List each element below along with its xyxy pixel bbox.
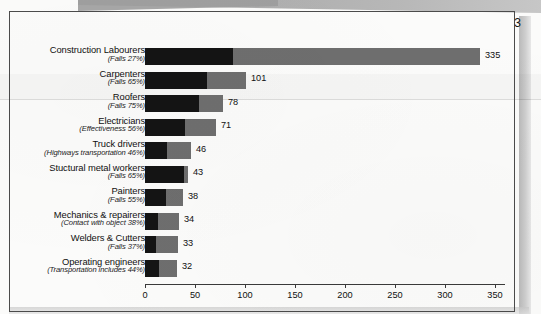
bar-value-label: 34 [184, 214, 194, 224]
x-axis-tick [245, 284, 246, 288]
x-axis-tick [395, 284, 396, 288]
bar-value-label: 46 [196, 144, 206, 154]
bar-segment-dark [145, 260, 159, 277]
bar-segment-dark [145, 189, 166, 206]
x-axis-tick-label: 50 [190, 290, 200, 300]
scan-artifact-top-wedge-2 [78, 0, 278, 11]
bar-track [145, 260, 177, 277]
bar-row: Welders & Cutters(Falls 37%)33 [9, 233, 513, 257]
bar-value-label: 38 [188, 191, 198, 201]
bar-segment-light [207, 72, 246, 89]
bar-chart: Construction Labourers(Falls 27%)335Carp… [9, 45, 513, 307]
bar-row: Stuctural metal workers(Falls 65%)43 [9, 163, 513, 187]
bar-rows: Construction Labourers(Falls 27%)335Carp… [9, 45, 513, 280]
bar-category-sublabel: (Highways transportation 46%) [0, 149, 145, 157]
bar-category-label: Painters(Falls 55%) [0, 186, 145, 203]
x-axis-tick-label: 350 [487, 290, 502, 300]
bar-value-label: 33 [183, 238, 193, 248]
bar-track [145, 189, 183, 206]
bar-category-sublabel: (Falls 55%) [0, 196, 145, 204]
bar-category-label: Mechanics & repairers(Contact with objec… [0, 210, 145, 227]
x-axis-tick-label: 200 [337, 290, 352, 300]
bar-track [145, 72, 246, 89]
bar-track [145, 213, 179, 230]
bar-track [145, 236, 178, 253]
bar-value-label: 101 [251, 73, 266, 83]
bar-segment-light [199, 95, 223, 112]
bar-category-label: Carpenters(Falls 65%) [0, 69, 145, 86]
bar-row: Electricians(Effectiveness 56%)71 [9, 116, 513, 140]
bar-segment-dark [145, 95, 199, 112]
bar-category-label: Electricians(Effectiveness 56%) [0, 116, 145, 133]
bar-track [145, 48, 480, 65]
bar-category-sublabel: (Falls 65%) [0, 78, 145, 86]
x-axis-tick-label: 0 [142, 290, 147, 300]
bar-track [145, 95, 223, 112]
bar-category-sublabel: (Falls 75%) [0, 102, 145, 110]
bar-segment-light [156, 236, 178, 253]
bar-category-label: Stuctural metal workers(Falls 65%) [0, 163, 145, 180]
bar-category-label: Welders & Cutters(Falls 37%) [0, 233, 145, 250]
bar-category-sublabel: (Effectiveness 56%) [0, 125, 145, 133]
bar-segment-light [185, 119, 216, 136]
bar-category-sublabel: (Contact with object 38%) [0, 219, 145, 227]
x-axis-tick [495, 284, 496, 288]
bar-segment-light [166, 189, 183, 206]
bar-category-label: Truck drivers(Highways transportation 46… [0, 139, 145, 156]
bar-category-sublabel: (Falls 27%) [0, 55, 145, 63]
bar-segment-dark [145, 166, 184, 183]
x-axis-tick [295, 284, 296, 288]
x-axis-tick-label: 100 [237, 290, 252, 300]
bar-category-sublabel: (Falls 37%) [0, 243, 145, 251]
x-axis-tick [145, 284, 146, 288]
bar-row: Operating engineers(Transportation inclu… [9, 257, 513, 281]
bar-segment-dark [145, 72, 207, 89]
bar-value-label: 32 [182, 261, 192, 271]
bar-segment-dark [145, 236, 156, 253]
bar-segment-dark [145, 142, 167, 159]
bar-row: Mechanics & repairers(Contact with objec… [9, 210, 513, 234]
bar-category-sublabel: (Transportation includes 44%) [0, 266, 145, 274]
x-axis-tick [345, 284, 346, 288]
bar-row: Construction Labourers(Falls 27%)335 [9, 45, 513, 69]
bar-value-label: 43 [193, 167, 203, 177]
bar-track [145, 119, 216, 136]
bar-segment-dark [145, 48, 233, 65]
x-axis-tick-label: 150 [287, 290, 302, 300]
bar-track [145, 166, 188, 183]
scanned-page: 3 Construction Labourers(Falls 27%)335Ca… [0, 0, 541, 314]
x-axis-tick-label: 250 [387, 290, 402, 300]
bar-segment-light [184, 166, 188, 183]
bar-category-label: Construction Labourers(Falls 27%) [0, 45, 145, 62]
scan-artifact-right-shadow [519, 16, 531, 314]
x-axis-tick-label: 300 [437, 290, 452, 300]
bar-row: Painters(Falls 55%)38 [9, 186, 513, 210]
bar-segment-light [167, 142, 191, 159]
bar-value-label: 71 [221, 120, 231, 130]
bar-category-label: Operating engineers(Transportation inclu… [0, 257, 145, 274]
bar-category-sublabel: (Falls 65%) [0, 172, 145, 180]
bar-row: Carpenters(Falls 65%)101 [9, 69, 513, 93]
bar-segment-dark [145, 213, 158, 230]
x-axis-tick [445, 284, 446, 288]
bar-category-label: Roofers(Falls 75%) [0, 92, 145, 109]
page-number: 3 [514, 16, 521, 30]
bar-row: Roofers(Falls 75%)78 [9, 92, 513, 116]
bar-track [145, 142, 191, 159]
x-axis-tick [195, 284, 196, 288]
bar-value-label: 78 [228, 97, 238, 107]
bar-value-label: 335 [485, 50, 500, 60]
bar-segment-light [233, 48, 480, 65]
bar-segment-light [159, 260, 177, 277]
bar-row: Truck drivers(Highways transportation 46… [9, 139, 513, 163]
bar-segment-light [158, 213, 179, 230]
bar-segment-dark [145, 119, 185, 136]
x-axis-line [145, 284, 505, 285]
